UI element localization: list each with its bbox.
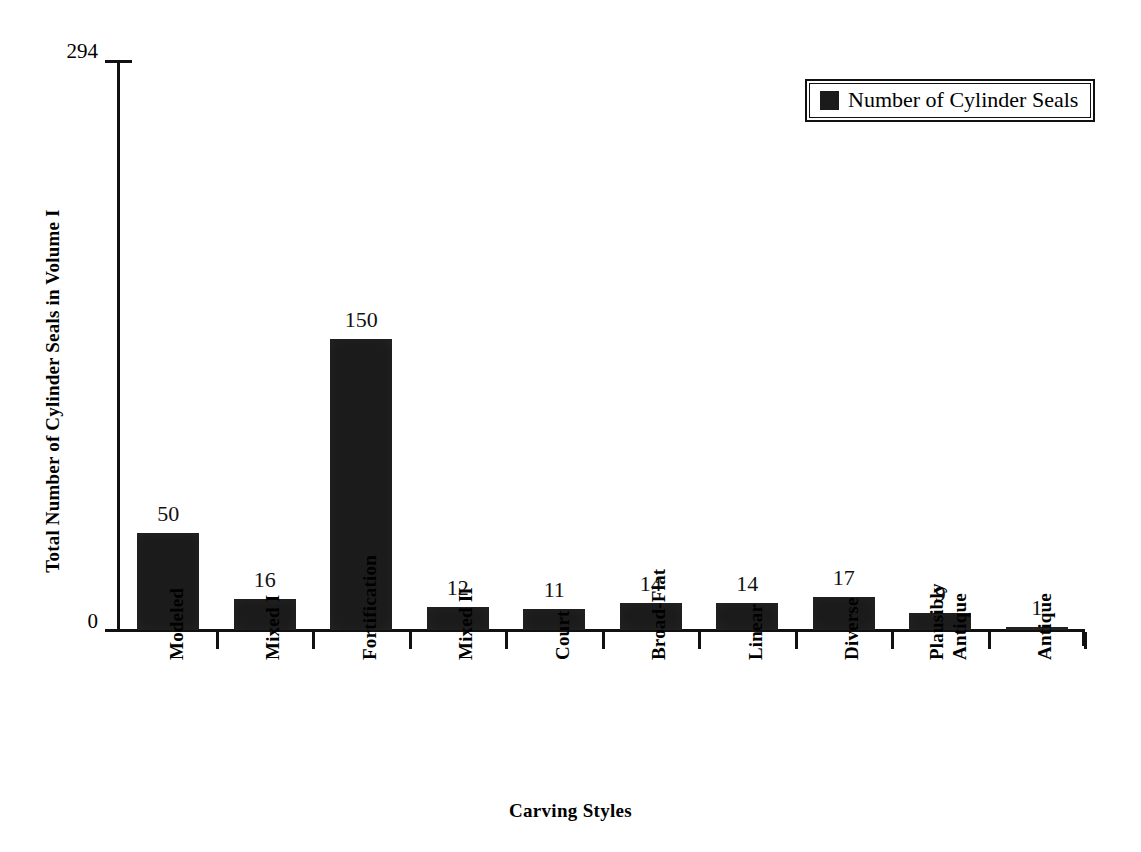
x-axis-tick bbox=[602, 632, 605, 649]
x-axis-tick bbox=[698, 632, 701, 649]
bar-slot: 14 bbox=[603, 60, 700, 630]
y-axis-tick-label-top: 294 bbox=[30, 39, 98, 64]
bar-value-label: 11 bbox=[544, 579, 565, 601]
legend-inner: Number of Cylinder Seals bbox=[809, 83, 1091, 118]
bar-slot: 150 bbox=[313, 60, 410, 630]
x-axis-category-label-line: Fortification bbox=[359, 555, 381, 660]
x-axis-tick bbox=[312, 632, 315, 649]
bar-slot: 9 bbox=[892, 60, 989, 630]
bar-slot: 50 bbox=[120, 60, 217, 630]
x-axis-category-label-line: Mixed I bbox=[262, 595, 284, 660]
bar-slot: 14 bbox=[699, 60, 796, 630]
bar-value-label: 16 bbox=[254, 569, 276, 591]
x-axis-tick bbox=[216, 632, 219, 649]
bar-chart: Total Number of Cylinder Seals in Volume… bbox=[0, 0, 1141, 852]
bar-value-label: 17 bbox=[833, 567, 855, 589]
x-axis-category-label-line: Mixed II bbox=[455, 587, 477, 660]
x-axis-tick bbox=[795, 632, 798, 649]
x-axis-tick bbox=[505, 632, 508, 649]
legend: Number of Cylinder Seals bbox=[805, 79, 1095, 122]
x-axis-tick bbox=[891, 632, 894, 649]
bar-slot: 1 bbox=[989, 60, 1086, 630]
legend-swatch-icon bbox=[820, 91, 839, 110]
y-axis-title: Total Number of Cylinder Seals in Volume… bbox=[42, 141, 64, 641]
legend-label: Number of Cylinder Seals bbox=[848, 89, 1078, 111]
x-axis-category-label-line: Antique bbox=[1034, 593, 1056, 660]
x-axis-category-label-line: Broad-Flat bbox=[648, 569, 670, 660]
plot-area: 5016150121114141791 bbox=[120, 60, 1085, 630]
x-axis-category-label-line: Court bbox=[552, 610, 574, 660]
x-axis-category-label-line: Linear bbox=[745, 604, 767, 660]
bar-value-label: 50 bbox=[157, 503, 179, 525]
x-axis-title: Carving Styles bbox=[0, 800, 1141, 822]
bar-slot: 17 bbox=[796, 60, 893, 630]
x-axis-tick bbox=[409, 632, 412, 649]
x-axis-category-label-line: Diverse bbox=[841, 597, 863, 660]
x-axis-tick bbox=[1084, 632, 1087, 649]
bar-slot: 16 bbox=[217, 60, 314, 630]
x-axis-category-label-line: Modeled bbox=[166, 588, 188, 660]
bar-value-label: 150 bbox=[345, 309, 378, 331]
x-axis-tick bbox=[988, 632, 991, 649]
bar-slot: 11 bbox=[506, 60, 603, 630]
x-axis-category-label-line: Antique bbox=[949, 593, 971, 660]
x-axis-category-label-line: Plausibly bbox=[926, 583, 948, 660]
bar-slot: 12 bbox=[410, 60, 507, 630]
bar-value-label: 14 bbox=[736, 573, 758, 595]
y-axis-tick-label-zero: 0 bbox=[30, 609, 98, 634]
